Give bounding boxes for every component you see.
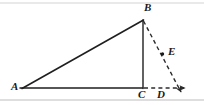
point-marker-e [161, 52, 164, 55]
ray-bd-dashed [144, 21, 182, 92]
vertex-label-d: D [157, 89, 165, 100]
vertex-label-a: A [11, 81, 18, 92]
segment-ab [22, 20, 144, 89]
vertex-label-b: B [144, 2, 151, 13]
vertex-label-e: E [168, 46, 175, 57]
geometry-figure: A B C D E [0, 0, 204, 105]
vertex-label-c: C [138, 89, 145, 100]
